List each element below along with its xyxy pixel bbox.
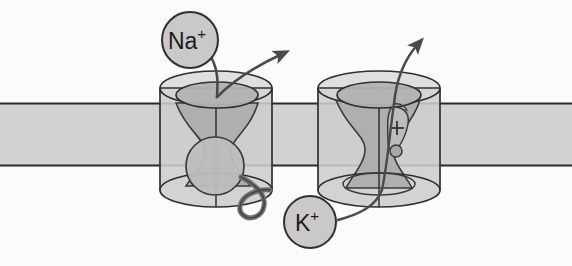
k-ion-label: K+ [284, 196, 336, 248]
na-element-symbol: Na [168, 28, 198, 54]
potassium-pore-mouth-ellipse [337, 82, 421, 108]
potassium-channel [318, 71, 440, 207]
na-ion-label: Na+ [162, 12, 218, 68]
k-charge-sign: + [310, 207, 319, 224]
inactivation-ball [186, 137, 244, 195]
lipid-bilayer-membrane [0, 103, 572, 166]
voltage-sensor-anchor-dot [390, 145, 402, 157]
diagram-canvas: Na+ K+ [0, 0, 572, 266]
k-element-symbol: K [295, 210, 311, 236]
ion-channel-diagram: Na+ K+ [0, 0, 572, 266]
membrane-band [0, 103, 572, 166]
na-charge-sign: + [197, 25, 206, 42]
